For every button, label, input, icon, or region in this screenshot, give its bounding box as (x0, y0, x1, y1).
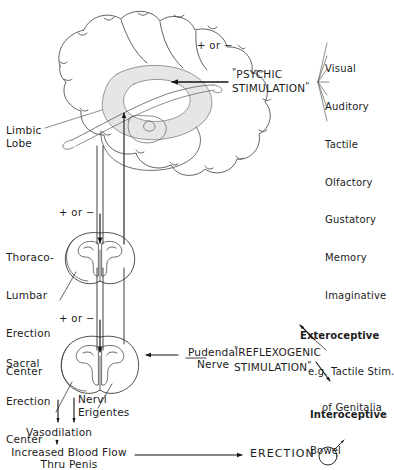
thoracolumbar-line-1: Thoraco- (6, 251, 54, 264)
psychic-line-1: PSYCHIC (236, 68, 282, 80)
blood-flow-line-2: Thru Penis (41, 458, 98, 470)
limbic-lobe-line-1: Limbic (6, 124, 42, 136)
thoracolumbar-line-2: Lumbar (6, 289, 54, 302)
psychic-close-quote: " (305, 81, 309, 91)
erection-label: ERECTION (250, 448, 315, 461)
sensory-item-auditory: Auditory (325, 101, 386, 114)
limbic-lobe-shading (102, 65, 212, 139)
interoceptive-block: Interoceptive Bowel Bladder (310, 385, 387, 470)
interoceptive-heading: Interoceptive (310, 409, 387, 421)
psychic-sensory-input-list: Visual Auditory Tactile Olfactory Gustat… (325, 38, 386, 328)
limbic-lobe-leader (45, 110, 102, 128)
sacral-line-1: Sacral (6, 357, 51, 370)
blood-flow-line-1: Increased Blood Flow (11, 446, 126, 458)
psychic-modifier-label: + or − (197, 40, 233, 51)
pudendal-line-2: Nerve (197, 358, 229, 370)
psychic-stimulation-label: "PSYCHICSTIMULATION" (232, 66, 310, 94)
increased-blood-flow-label: Increased Blood FlowThru Penis (4, 446, 134, 470)
sensory-item-olfactory: Olfactory (325, 177, 386, 190)
exteroceptive-detail-1: e.g. Tactile Stim. (300, 366, 394, 378)
sensory-item-imaginative: Imaginative (325, 290, 386, 303)
vasodilation-label: Vasodilation (26, 427, 92, 439)
sensory-item-gustatory: Gustatory (325, 214, 386, 227)
psychic-line-2: STIMULATION (232, 82, 305, 94)
exteroceptive-heading: Exteroceptive (300, 330, 394, 342)
nervi-erigentes-line-1: Nervi (78, 393, 107, 405)
efferent-to-vasodilation (58, 398, 74, 422)
interoceptive-item-bowel: Bowel (310, 445, 387, 457)
sensory-item-memory: Memory (325, 252, 386, 265)
reflexogenic-line-2: STIMULATION (234, 361, 307, 373)
thoracolumbar-modifier-label: + or − (59, 207, 95, 218)
pudendal-nerve-label: PudendalNerve (188, 346, 238, 371)
sacral-line-2: Erection (6, 395, 51, 408)
limbic-lobe-line-2: Lobe (6, 137, 32, 149)
sensory-item-visual: Visual (325, 63, 386, 76)
nervi-erigentes-line-2: Erigentes (78, 406, 130, 418)
sensory-item-tactile: Tactile (325, 139, 386, 152)
limbic-lobe-label: LimbicLobe (6, 124, 42, 150)
nervi-erigentes-label: NerviErigentes (78, 393, 130, 418)
pudendal-line-1: Pudendal (188, 346, 238, 358)
sacral-modifier-label: + or − (59, 313, 95, 324)
diagram-canvas: + or − "PSYCHICSTIMULATION" Visual Audit… (0, 0, 394, 470)
descending-tract-lines (97, 146, 124, 350)
